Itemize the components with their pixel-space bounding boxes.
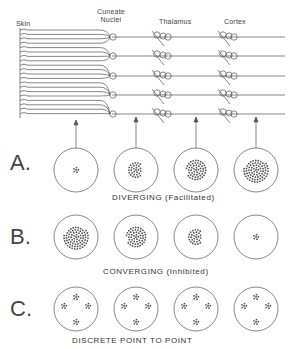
caption-converging: CONVERGING (Inhibited)	[103, 267, 209, 276]
label-cuneate-line1: Cuneate	[97, 8, 125, 16]
label-cuneate-line2: Nuclei	[97, 16, 125, 24]
label-cuneate: Cuneate Nuclei	[97, 8, 125, 24]
pathway-diagram	[0, 0, 298, 349]
label-thalamus: Thalamus	[159, 18, 191, 25]
caption-discrete: DISCRETE POINT TO POINT	[72, 336, 192, 345]
caption-diverging: DIVERGING (Facilitated)	[112, 193, 215, 202]
row-letter-b: B.	[10, 224, 31, 250]
label-skin: Skin	[16, 20, 30, 27]
row-letter-a: A.	[10, 150, 31, 176]
row-letter-c: C.	[10, 296, 32, 322]
label-cortex: Cortex	[224, 18, 246, 25]
